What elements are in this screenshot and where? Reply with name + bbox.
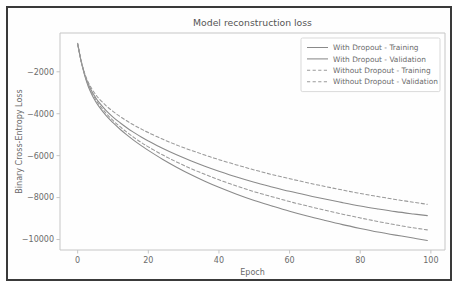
x-tick-label: 60 xyxy=(284,256,294,265)
y-tick-label: −10000 xyxy=(22,235,54,244)
x-tick-label: 40 xyxy=(214,256,224,265)
line-chart: Model reconstruction loss Epoch Binary C… xyxy=(8,8,454,283)
x-axis-ticks: 020406080100 xyxy=(75,250,438,265)
y-tick-label: −6000 xyxy=(27,152,54,161)
legend-label-3[interactable]: Without Dropout - Validation xyxy=(333,77,438,86)
chart-legend[interactable]: With Dropout - TrainingWith Dropout - Va… xyxy=(301,38,440,92)
y-tick-label: −4000 xyxy=(27,110,54,119)
y-axis-ticks: −2000−4000−6000−8000−10000 xyxy=(22,68,60,245)
legend-label-2[interactable]: Without Dropout - Training xyxy=(333,66,431,75)
x-tick-label: 100 xyxy=(423,256,438,265)
y-axis-label: Binary Cross-Entropy Loss xyxy=(15,89,24,193)
chart-title: Model reconstruction loss xyxy=(193,17,312,28)
x-tick-label: 0 xyxy=(75,256,80,265)
y-tick-label: −8000 xyxy=(27,193,54,202)
figure-panel: Model reconstruction loss Epoch Binary C… xyxy=(6,6,452,281)
x-axis-label: Epoch xyxy=(240,268,265,277)
x-tick-label: 20 xyxy=(143,256,153,265)
x-tick-label: 80 xyxy=(355,256,365,265)
y-tick-label: −2000 xyxy=(27,68,54,77)
legend-label-0[interactable]: With Dropout - Training xyxy=(333,43,419,52)
legend-label-1[interactable]: With Dropout - Validation xyxy=(333,55,426,64)
